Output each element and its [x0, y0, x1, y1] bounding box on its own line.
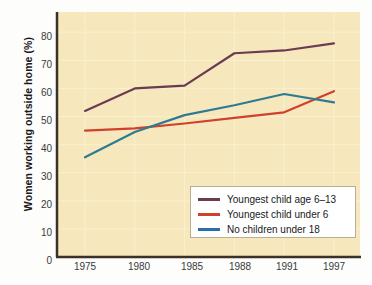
legend-swatch-icon [198, 198, 220, 201]
legend-item-label: Youngest child age 6–13 [227, 194, 336, 205]
legend-item-label: No children under 18 [227, 224, 320, 235]
legend-item: Youngest child age 6–13 [198, 192, 349, 207]
legend-swatch-icon [198, 213, 220, 216]
legend-swatch-icon [198, 228, 220, 231]
chart-legend: Youngest child age 6–13 Youngest child u… [190, 186, 356, 238]
legend-item-label: Youngest child under 6 [227, 209, 328, 220]
legend-item: Youngest child under 6 [198, 207, 349, 222]
plot-area [0, 0, 372, 285]
legend-item: No children under 18 [198, 222, 349, 237]
chart-figure: Women working outside home (%) 0 10 20 3… [0, 0, 372, 285]
